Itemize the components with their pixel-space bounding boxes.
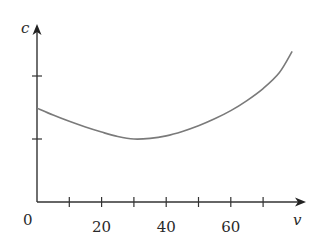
y-axis-label: c bbox=[21, 19, 30, 37]
chart: c v 0 204060 bbox=[0, 0, 323, 248]
origin-label: 0 bbox=[23, 211, 33, 229]
x-tick-label: 20 bbox=[92, 218, 111, 236]
x-tick-label: 40 bbox=[157, 218, 176, 236]
x-tick-label: 60 bbox=[221, 218, 240, 236]
x-axis-label: v bbox=[293, 211, 302, 229]
axis-ticks bbox=[32, 76, 263, 207]
data-curve bbox=[37, 51, 292, 139]
x-tick-labels: 204060 bbox=[92, 218, 240, 236]
